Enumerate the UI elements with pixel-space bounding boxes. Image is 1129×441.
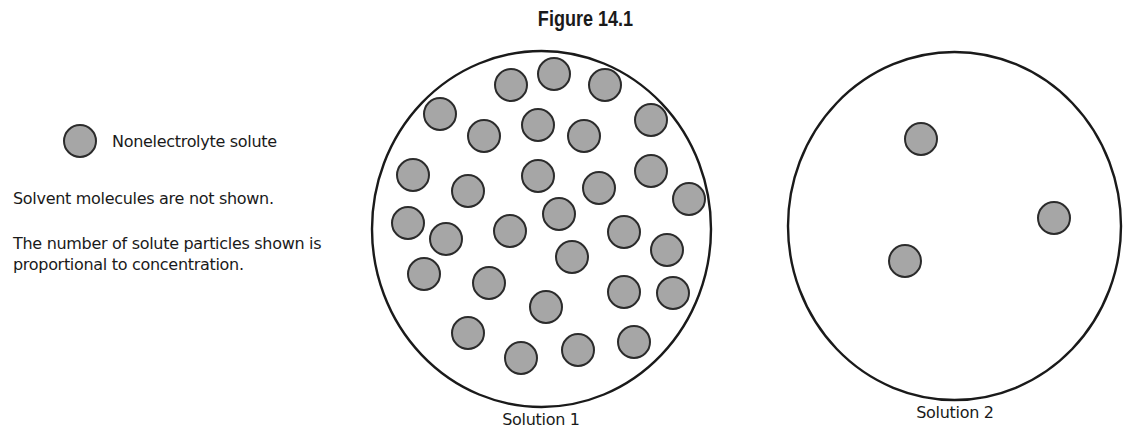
solute-particle	[889, 245, 921, 277]
solute-particle	[657, 277, 689, 309]
solute-particle	[522, 109, 554, 141]
solute-particle	[635, 155, 667, 187]
legend-label: Nonelectrolyte solute	[112, 132, 277, 151]
solution-1-container	[372, 51, 711, 407]
solute-particle	[522, 160, 554, 192]
solute-particle	[397, 159, 429, 191]
solute-particle	[568, 120, 600, 152]
solute-particle	[608, 276, 640, 308]
legend-symbol-spacer	[62, 124, 98, 158]
solution-2-label: Solution 2	[855, 403, 1055, 422]
solute-particle	[452, 175, 484, 207]
solute-particle	[543, 198, 575, 230]
solute-particle	[673, 183, 705, 215]
solute-particle	[424, 98, 456, 130]
note-proportional-text: The number of solute particles shown is …	[13, 234, 321, 274]
solute-particle	[505, 342, 537, 374]
figure-title: Figure 14.1	[106, 6, 1032, 32]
solute-particle	[583, 172, 615, 204]
solution-2-boundary	[788, 52, 1121, 400]
solute-particle	[392, 207, 424, 239]
note-proportional: The number of solute particles shown is …	[13, 233, 343, 275]
legend: Nonelectrolyte solute	[62, 124, 277, 158]
solute-particle	[556, 241, 588, 273]
solute-particle	[530, 291, 562, 323]
solute-particle	[905, 123, 937, 155]
solute-particle	[452, 317, 484, 349]
solution-2-container	[788, 52, 1121, 400]
diagram-canvas	[0, 0, 1129, 441]
solute-particle	[408, 258, 440, 290]
solute-particle	[651, 234, 683, 266]
solute-particle	[589, 69, 621, 101]
solute-particle	[1038, 202, 1070, 234]
solution-1-label: Solution 1	[441, 410, 641, 429]
solute-particle	[473, 267, 505, 299]
solute-particle	[608, 216, 640, 248]
solute-particle	[538, 58, 570, 90]
solute-particle	[635, 104, 667, 136]
solute-particle	[494, 215, 526, 247]
solute-particle	[618, 326, 650, 358]
solution-2-particles	[889, 123, 1070, 277]
solute-particle	[495, 69, 527, 101]
solute-particle	[468, 120, 500, 152]
solute-particle	[562, 334, 594, 366]
note-solvent-hidden: Solvent molecules are not shown.	[13, 188, 274, 209]
solution-1-particles	[392, 58, 705, 374]
solute-particle	[430, 223, 462, 255]
